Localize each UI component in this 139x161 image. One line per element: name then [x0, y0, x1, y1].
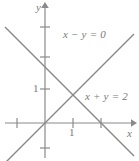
y-axis-label: y [36, 2, 41, 13]
x-axis-arrow-icon [131, 119, 137, 127]
y-axis-tick-label-1: 1 [33, 83, 39, 94]
y-axis-arrow-icon [41, 2, 49, 8]
equation-label-line1: x − y = 0 [63, 29, 106, 40]
equation-label-line2: x + y = 2 [85, 91, 128, 102]
x-axis-tick-label-1: 1 [69, 127, 75, 138]
coordinate-plane-figure: x − y = 0 x + y = 2 x y 1 1 [0, 0, 139, 161]
x-axis-label: x [127, 128, 132, 139]
tick-marks [17, 27, 101, 148]
